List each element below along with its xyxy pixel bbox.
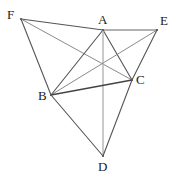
vertex-point-c <box>131 79 133 81</box>
edge-fb <box>21 19 51 95</box>
vertex-point-f <box>20 18 22 20</box>
vertex-point-a <box>102 29 104 31</box>
edge-fc <box>21 19 132 80</box>
vertex-label-e: E <box>160 14 168 27</box>
edge-bd <box>51 95 103 156</box>
geometry-figure: FAECBD <box>0 0 181 185</box>
vertex-point-b <box>50 94 52 96</box>
vertex-point-d <box>102 155 104 157</box>
vertex-label-a: A <box>98 13 107 26</box>
edge-fa <box>21 19 103 30</box>
vertex-label-f: F <box>7 8 14 21</box>
edge-cd <box>103 80 132 156</box>
vertex-label-c: C <box>136 73 145 86</box>
vertex-label-d: D <box>98 160 107 173</box>
vertex-point-e <box>156 29 158 31</box>
figure-canvas <box>0 0 181 185</box>
vertex-label-b: B <box>38 89 47 102</box>
